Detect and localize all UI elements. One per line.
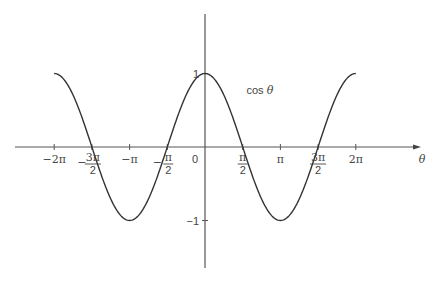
axes — [15, 14, 421, 268]
x-tick-label-fraction: π2 — [238, 151, 248, 176]
x-tick-label-fraction: −3π2 — [77, 151, 101, 176]
x-tick-label: −2π — [42, 153, 65, 166]
x-tick-label-denominator: 2 — [165, 164, 171, 176]
x-tick-label: 2π — [349, 153, 363, 166]
x-tick-label-numerator: 3π — [86, 151, 100, 164]
curve-label-func: cos — [246, 84, 266, 96]
origin-label: 0 — [192, 153, 198, 165]
y-tick-label: −1 — [186, 215, 199, 227]
x-tick-label-numerator: 3π — [311, 151, 325, 164]
x-axis-label: θ — [419, 153, 426, 166]
x-tick-label-denominator: 2 — [240, 164, 246, 176]
y-tick-label: 1 — [193, 68, 199, 80]
x-tick-label-denominator: 2 — [90, 164, 96, 176]
x-tick-label-numerator: π — [239, 151, 246, 164]
x-tick-label-numerator: π — [165, 151, 172, 164]
x-tick-label-fraction: 3π2 — [310, 151, 326, 176]
x-tick-label-denominator: 2 — [315, 164, 321, 176]
x-tick-label-sign: − — [153, 156, 162, 169]
cosine-chart: −2π−3π2−π−π2π2π3π22π0θ1−1cos θ — [0, 0, 441, 281]
curve-label: cos θ — [246, 84, 273, 97]
x-tick-label-fraction: −π2 — [153, 151, 174, 176]
x-tick-label: π — [277, 153, 284, 166]
x-axis-arrow-icon — [413, 145, 421, 150]
curve-label-var: θ — [267, 84, 274, 97]
x-tick-label: −π — [121, 153, 137, 166]
